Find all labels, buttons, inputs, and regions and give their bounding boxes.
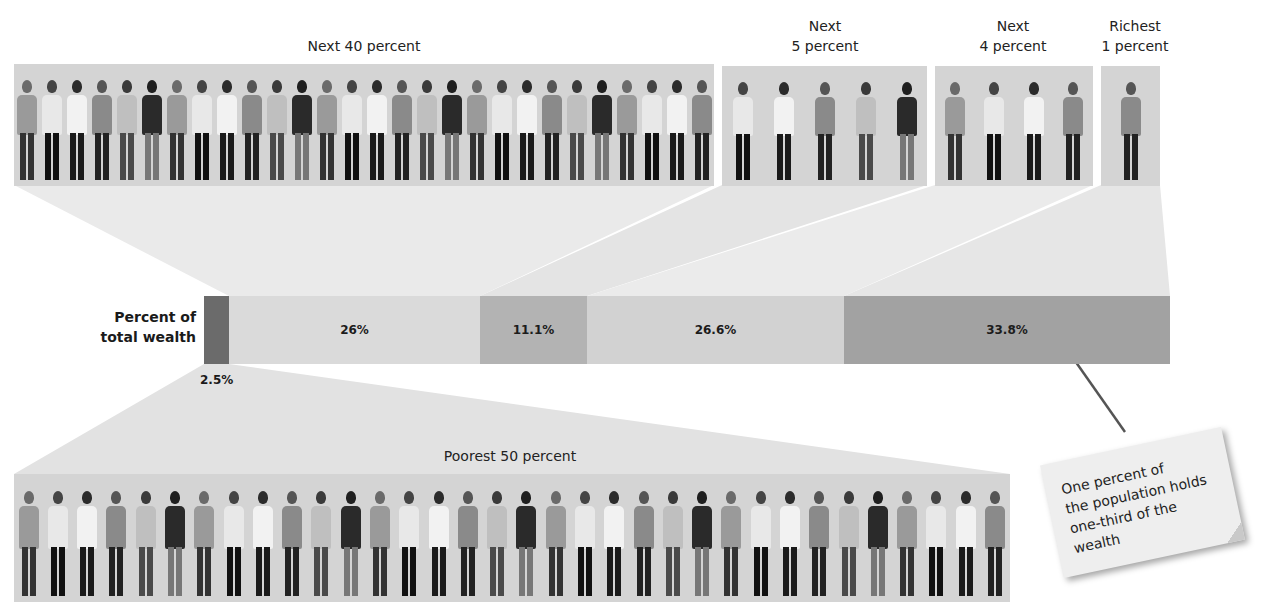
crowd-illustration [14, 484, 1010, 596]
segment-richest-1: 33.8% [844, 296, 1170, 364]
label-poorest-50: Poorest 50 percent [380, 446, 640, 466]
segment-value: 33.8% [986, 323, 1028, 337]
person-figure-icon [76, 484, 98, 596]
person-figure-icon [616, 74, 638, 180]
person-figure-icon [166, 74, 188, 180]
person-figure-icon [662, 484, 684, 596]
label-richest-1: Richest 1 percent [1090, 16, 1180, 56]
person-figure-icon [398, 484, 420, 596]
label-line: Next [948, 16, 1078, 36]
people-panel-richest-1 [1101, 66, 1160, 186]
person-figure-icon [666, 74, 688, 180]
person-figure-icon [66, 74, 88, 180]
person-figure-icon [105, 484, 127, 596]
person-figure-icon [491, 74, 513, 180]
segment-value: 11.1% [513, 323, 555, 337]
person-figure-icon [1023, 76, 1045, 180]
person-figure-icon [732, 76, 754, 180]
label-text: Next 40 percent [308, 38, 421, 54]
person-figure-icon [1120, 76, 1142, 180]
person-figure-icon [773, 76, 795, 180]
label-line: 5 percent [760, 36, 890, 56]
person-figure-icon [252, 484, 274, 596]
wealth-bar: 26% 11.1% 26.6% 33.8% [204, 296, 1170, 364]
label-text: Poorest 50 percent [444, 448, 576, 464]
person-figure-icon [486, 484, 508, 596]
page-curl-icon [1224, 522, 1245, 543]
segment-value: 26% [340, 323, 369, 337]
person-figure-icon [291, 74, 313, 180]
person-figure-icon [867, 484, 889, 596]
person-figure-icon [541, 74, 563, 180]
segment-value: 26.6% [695, 323, 737, 337]
people-panel-next-40 [14, 64, 714, 186]
person-figure-icon [925, 484, 947, 596]
person-figure-icon [691, 74, 713, 180]
person-figure-icon [574, 484, 596, 596]
bar-title-line: total wealth [70, 327, 196, 347]
person-figure-icon [838, 484, 860, 596]
person-figure-icon [193, 484, 215, 596]
person-figure-icon [191, 74, 213, 180]
person-figure-icon [566, 74, 588, 180]
person-figure-icon [340, 484, 362, 596]
crowd-illustration [935, 76, 1093, 180]
person-figure-icon [391, 74, 413, 180]
segment-next-40: 26% [229, 296, 480, 364]
person-figure-icon [47, 484, 69, 596]
person-figure-icon [814, 76, 836, 180]
crowd-illustration [14, 74, 714, 180]
person-figure-icon [366, 74, 388, 180]
person-figure-icon [1062, 76, 1084, 180]
person-figure-icon [281, 484, 303, 596]
person-figure-icon [691, 484, 713, 596]
person-figure-icon [779, 484, 801, 596]
label-next-5: Next 5 percent [760, 16, 890, 56]
people-panel-next-5 [722, 66, 927, 186]
bar-title: Percent of total wealth [70, 307, 196, 347]
person-figure-icon [896, 484, 918, 596]
person-figure-icon [135, 484, 157, 596]
person-figure-icon [341, 74, 363, 180]
person-figure-icon [310, 484, 332, 596]
person-figure-icon [944, 76, 966, 180]
person-figure-icon [16, 74, 38, 180]
person-figure-icon [955, 484, 977, 596]
person-figure-icon [984, 484, 1006, 596]
person-figure-icon [223, 484, 245, 596]
segment-next-5: 11.1% [480, 296, 587, 364]
person-figure-icon [591, 74, 613, 180]
person-figure-icon [416, 74, 438, 180]
person-figure-icon [241, 74, 263, 180]
person-figure-icon [516, 74, 538, 180]
person-figure-icon [164, 484, 186, 596]
label-next-4: Next 4 percent [948, 16, 1078, 56]
segment-next-4: 26.6% [587, 296, 844, 364]
label-line: 1 percent [1090, 36, 1180, 56]
person-figure-icon [441, 74, 463, 180]
crowd-illustration [1101, 76, 1160, 180]
person-figure-icon [18, 484, 40, 596]
segment-poorest-value: 2.5% [200, 373, 233, 387]
person-figure-icon [603, 484, 625, 596]
person-figure-icon [515, 484, 537, 596]
person-figure-icon [750, 484, 772, 596]
person-figure-icon [91, 74, 113, 180]
person-figure-icon [116, 74, 138, 180]
person-figure-icon [141, 74, 163, 180]
person-figure-icon [808, 484, 830, 596]
person-figure-icon [316, 74, 338, 180]
person-figure-icon [855, 76, 877, 180]
crowd-illustration [722, 76, 927, 180]
label-line: 4 percent [948, 36, 1078, 56]
person-figure-icon [457, 484, 479, 596]
segment-poorest-50 [204, 296, 229, 364]
person-figure-icon [720, 484, 742, 596]
label-line: Next [760, 16, 890, 36]
person-figure-icon [896, 76, 918, 180]
person-figure-icon [216, 74, 238, 180]
person-figure-icon [466, 74, 488, 180]
people-panel-poorest-50 [14, 474, 1010, 602]
label-line: Richest [1090, 16, 1180, 36]
person-figure-icon [983, 76, 1005, 180]
